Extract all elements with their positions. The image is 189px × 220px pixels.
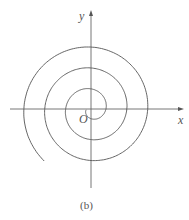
x-axis — [10, 107, 184, 111]
spiral-figure: y x O (b) — [0, 0, 189, 220]
figure-caption: (b) — [80, 199, 93, 212]
origin-label: O — [79, 112, 88, 126]
x-axis-arrow-icon — [178, 107, 184, 111]
y-axis — [89, 10, 93, 188]
y-axis-label: y — [78, 9, 85, 23]
x-axis-label: x — [177, 113, 184, 127]
spiral-curve — [24, 47, 148, 161]
y-axis-arrow-icon — [89, 10, 93, 16]
